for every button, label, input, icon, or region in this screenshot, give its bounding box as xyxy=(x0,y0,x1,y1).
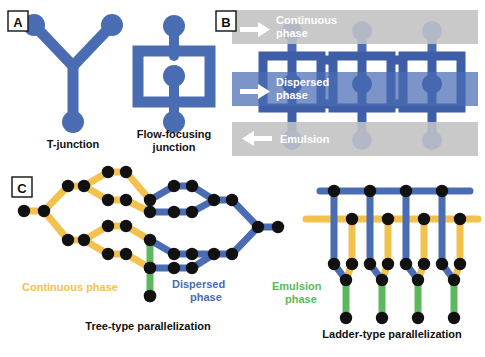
ff-junction-caption-line1: Flow-focusing xyxy=(137,128,212,140)
panel-c-ladder: Emulsion phase Ladder-type parallelizati… xyxy=(272,185,478,340)
panel-b-label: B xyxy=(216,11,236,31)
panel-a: A T-junction Flow-focusing junction xyxy=(8,11,211,153)
legend-emulsion-phase-line2: phase xyxy=(285,293,317,305)
panel-c-letter: C xyxy=(17,181,27,196)
label-emulsion: Emulsion xyxy=(280,133,330,145)
label-dispersed-line1: Dispersed xyxy=(276,76,329,88)
panel-a-label: A xyxy=(8,11,28,31)
flow-focusing-junction-diagram xyxy=(138,15,210,133)
ff-port-top xyxy=(163,15,185,37)
ff-junction-caption-line2: junction xyxy=(152,141,196,153)
figure-microfluidic-parallelization: A T-junction Flow-focusing junction xyxy=(0,0,485,357)
band-dispersed-phase xyxy=(232,72,478,106)
label-continuous-line1: Continuous xyxy=(276,14,337,26)
legend-dispersed-phase-line1: Dispersed xyxy=(172,278,225,290)
panel-b-letter: B xyxy=(221,15,230,30)
legend-continuous-phase: Continuous phase xyxy=(22,281,118,293)
legend-emulsion-phase-line1: Emulsion xyxy=(272,280,322,292)
ff-port-center xyxy=(163,65,185,87)
legend-dispersed-phase-line2: phase xyxy=(190,291,222,303)
t-junction-port-outlet xyxy=(62,111,84,133)
panel-c-tree: Continuous phase Dispersed phase Tree-ty… xyxy=(12,166,284,332)
tree-caption: Tree-type parallelization xyxy=(85,320,211,332)
panel-a-letter: A xyxy=(13,15,23,30)
t-junction-port-inlet-right xyxy=(101,14,123,36)
panel-b: Continuous phase Dispersed phase Emulsio… xyxy=(216,10,478,156)
ladder-caption: Ladder-type parallelization xyxy=(322,328,462,340)
t-junction-diagram xyxy=(23,14,123,133)
label-continuous-line2: phase xyxy=(276,27,308,39)
t-junction-caption: T-junction xyxy=(47,138,100,150)
label-dispersed-line2: phase xyxy=(276,89,308,101)
panel-c-label: C xyxy=(12,177,32,197)
